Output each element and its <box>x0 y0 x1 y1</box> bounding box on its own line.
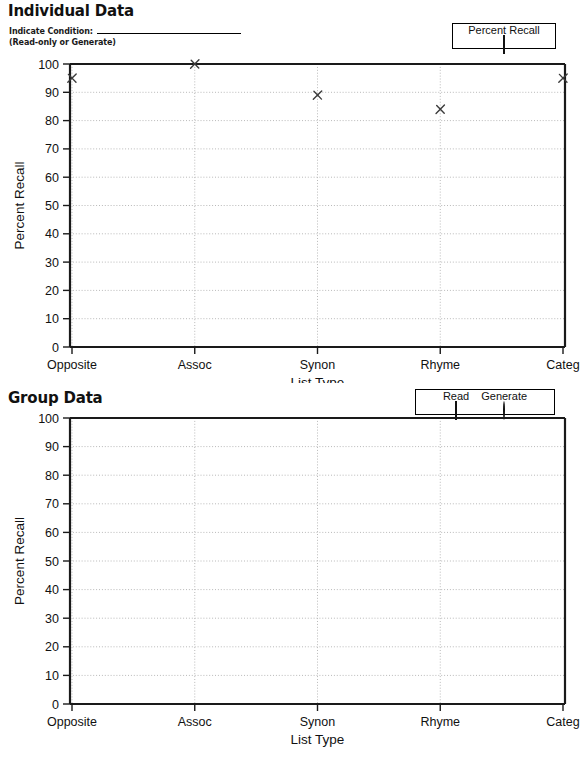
y-axis-tick-label: 70 <box>45 142 59 156</box>
y-axis-tick-label: 20 <box>45 284 59 298</box>
x-axis-category-label: Categ <box>546 358 579 372</box>
y-axis-tick-label: 50 <box>45 555 59 569</box>
chart-group-data: 0102030405060708090100OppositeAssocSynon… <box>0 383 588 770</box>
chart-individual-data: 0102030405060708090100OppositeAssocSynon… <box>0 0 588 383</box>
x-axis-title: List Type <box>291 732 345 747</box>
y-axis-tick-label: 0 <box>52 698 59 712</box>
y-axis-tick-label: 30 <box>45 612 59 626</box>
y-axis-tick-label: 30 <box>45 256 59 270</box>
y-axis-tick-label: 50 <box>45 199 59 213</box>
y-axis-tick-label: 40 <box>45 227 59 241</box>
y-axis-tick-label: 90 <box>45 440 59 454</box>
y-axis-title: Percent Recall <box>12 517 27 605</box>
y-axis-tick-label: 100 <box>38 412 59 426</box>
x-axis-category-label: Assoc <box>178 358 212 372</box>
x-axis-category-label: Rhyme <box>420 715 460 729</box>
x-axis-category-label: Synon <box>300 715 335 729</box>
x-axis-category-label: Assoc <box>178 715 212 729</box>
y-axis-tick-label: 60 <box>45 526 59 540</box>
y-axis-tick-label: 90 <box>45 86 59 100</box>
x-axis-category-label: Synon <box>300 358 335 372</box>
chart-canvas-group: 0102030405060708090100OppositeAssocSynon… <box>0 383 588 770</box>
x-axis-title: List Type <box>291 375 345 383</box>
y-axis-tick-label: 80 <box>45 114 59 128</box>
y-axis-title: Percent Recall <box>12 162 27 250</box>
y-axis-tick-label: 0 <box>52 341 59 355</box>
x-axis-category-label: Opposite <box>47 715 97 729</box>
y-axis-tick-label: 60 <box>45 171 59 185</box>
data-point-marker <box>436 105 444 113</box>
x-axis-category-label: Categ <box>546 715 579 729</box>
y-axis-tick-label: 10 <box>45 669 59 683</box>
x-axis-category-label: Opposite <box>47 358 97 372</box>
y-axis-tick-label: 100 <box>38 58 59 72</box>
y-axis-tick-label: 20 <box>45 640 59 654</box>
y-axis-tick-label: 10 <box>45 312 59 326</box>
y-axis-tick-label: 40 <box>45 583 59 597</box>
y-axis-tick-label: 70 <box>45 497 59 511</box>
y-axis-tick-label: 80 <box>45 469 59 483</box>
x-axis-category-label: Rhyme <box>420 358 460 372</box>
worksheet-page: Individual Data Indicate Condition: (Rea… <box>0 0 588 770</box>
chart-canvas-individual: 0102030405060708090100OppositeAssocSynon… <box>0 0 588 383</box>
